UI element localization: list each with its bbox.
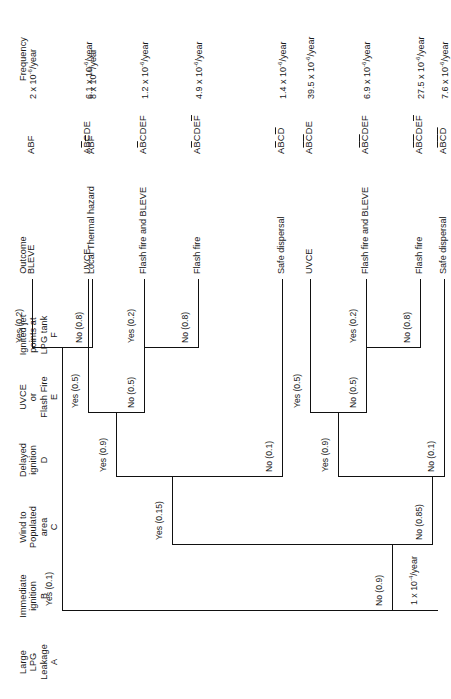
header-D-line3: D: [39, 429, 49, 491]
outcome-frequency: 1.2 x 10-6/year: [138, 42, 150, 99]
header-B-line1: Immediate: [18, 563, 28, 629]
branch-label-E1-yes: Yes (0.5): [70, 374, 80, 408]
header-A-line1: Large: [18, 631, 28, 693]
header-E-line4: E: [49, 367, 59, 427]
outcome-label: Flash fire and BLEVE: [138, 187, 148, 274]
tree-line-E1-yes: [88, 279, 89, 413]
tree-line-F0-no: [92, 279, 93, 348]
tree-line-F2-yes: [366, 279, 367, 348]
header-A-line3: Leakage: [39, 631, 49, 693]
header-A: Large LPG Leakage A: [18, 631, 60, 693]
figure-root: Large LPG Leakage A Immediate ignition B…: [0, 0, 451, 699]
branch-label-E2-yes: Yes (0.5): [292, 374, 302, 408]
outcome-code: ABCDEF: [414, 115, 424, 154]
branch-label-D1-yes: Yes (0.9): [98, 438, 108, 472]
tree-line-F2-no: [420, 279, 421, 348]
tree-line-B-yes: [62, 348, 63, 611]
branch-label-B-yes: Yes (0.1): [44, 572, 54, 606]
outcome-frequency: 2 x 10-6/year: [26, 49, 38, 99]
outcome-frequency: 39.5 x 10-6/year: [304, 37, 316, 99]
header-C-line2: Populated: [28, 494, 38, 560]
branch-label-D2-no: No (0.1): [426, 441, 436, 472]
tree-line-F1-split: [144, 347, 198, 348]
tree-line-C-no: [432, 477, 433, 545]
branch-label-B-no: No (0.9): [374, 575, 384, 606]
header-A-line4: A: [49, 631, 59, 693]
header-C-line4: C: [49, 494, 59, 560]
header-F-line3: LPG tank: [39, 304, 49, 366]
initiating-frequency-value: 1 x 10-4/year: [409, 556, 419, 605]
branch-label-C-yes: Yes (0.15): [154, 501, 164, 540]
header-D: Delayed ignition D: [18, 429, 49, 491]
tree-line-F1-yes: [144, 279, 145, 348]
header-C-line3: area: [39, 494, 49, 560]
tree-line-B-no: [392, 545, 393, 611]
outcome-label: BLEVE: [26, 245, 36, 274]
outcome-label: Flash fire: [414, 237, 424, 274]
tree-line-F0-split: [32, 347, 92, 348]
branch-label-F2-yes: Yes (0.2): [348, 309, 358, 343]
tree-line-C-yes: [172, 477, 173, 545]
outcome-code: ABCDEF: [138, 115, 148, 154]
tree-line-D2-no: [444, 279, 445, 477]
header-F-line2: points at: [28, 304, 38, 366]
event-tree-canvas: Large LPG Leakage A Immediate ignition B…: [0, 0, 451, 699]
tree-line-D1-no: [282, 279, 283, 477]
tree-line-F2-split: [366, 347, 420, 348]
outcome-label: UVCE: [82, 249, 92, 274]
tree-line-D1-yes: [116, 413, 117, 477]
tree-line-D1-split: [116, 476, 282, 477]
header-C-line1: Wind to: [18, 494, 28, 560]
branch-label-E1-no: No (0.5): [126, 377, 136, 408]
branch-label-C-no: No (0.85): [414, 504, 424, 540]
header-F: Ignited jet points at LPG tank F: [18, 304, 60, 366]
outcome-label: UVCE: [304, 249, 314, 274]
branch-label-D1-no: No (0.1): [264, 441, 274, 472]
header-C: Wind to Populated area C: [18, 494, 60, 560]
branch-label-F0-yes: Yes (0.2): [14, 309, 24, 343]
tree-line-E2-split: [310, 412, 366, 413]
header-E-line3: Flash Fire: [39, 367, 49, 427]
branch-label-F1-no: No (0.8): [180, 312, 190, 343]
outcome-frequency: 4.9 x 10-6/year: [192, 42, 204, 99]
header-E: UVCE or Flash Fire E: [18, 367, 60, 427]
outcome-code: ABCDE: [82, 121, 92, 154]
outcome-frequency: 27.5 x 10-6/year: [414, 37, 426, 99]
tree-line-E1-no: [144, 348, 145, 413]
outcome-code: ABCDEF: [360, 115, 370, 154]
tree-line-initiator-stem: [392, 610, 438, 611]
outcome-frequency: 7.6 x 10-6/year: [438, 42, 450, 99]
tree-line-F1-no: [198, 279, 199, 348]
outcome-frequency: 1.4 x 10-6/year: [276, 42, 288, 99]
outcome-code: ABCDEF: [192, 115, 202, 154]
outcome-code: ABCDE: [304, 121, 314, 154]
tree-line-D2-split: [338, 476, 444, 477]
tree-line-B-split: [62, 610, 392, 611]
header-D-line1: Delayed: [18, 429, 28, 491]
initiating-frequency-label: 1 x 10-4/year: [408, 556, 419, 605]
branch-label-E2-no: No (0.5): [348, 377, 358, 408]
branch-label-F2-no: No (0.8): [402, 312, 412, 343]
outcome-label: Safe dispersal: [276, 216, 286, 274]
tree-line-D2-yes: [338, 413, 339, 477]
outcome-frequency: 6.9 x 10-6/year: [360, 42, 372, 99]
outcome-code: ABCD: [276, 127, 286, 154]
outcome-code: ABCD: [438, 127, 448, 154]
branch-label-F0-no: No (0.8): [74, 312, 84, 343]
tree-line-E2-yes: [310, 279, 311, 413]
branch-label-D2-yes: Yes (0.9): [320, 438, 330, 472]
header-F-line4: F: [49, 304, 59, 366]
tree-line-E1-split: [88, 412, 144, 413]
tree-line-F0-yes: [32, 279, 33, 348]
tree-line-C-split: [172, 544, 432, 545]
outcome-label: Flash fire: [192, 237, 202, 274]
header-D-line2: ignition: [28, 429, 38, 491]
tree-line-E2-no: [366, 348, 367, 413]
outcome-frequency: 6.1 x 10-6/year: [82, 42, 94, 99]
outcome-label: Flash fire and BLEVE: [360, 187, 370, 274]
outcome-code: ABF: [26, 135, 36, 154]
outcome-label: Safe dispersal: [438, 216, 448, 274]
branch-label-F1-yes: Yes (0.2): [126, 309, 136, 343]
header-E-line1: UVCE: [18, 367, 28, 427]
header-B-line2: ignition: [28, 563, 38, 629]
